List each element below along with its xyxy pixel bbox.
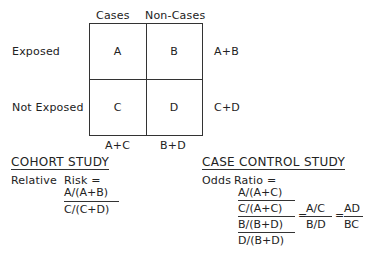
case-control-title-underline bbox=[202, 169, 345, 170]
cc-mid-bar bbox=[306, 216, 332, 217]
cell-a: A bbox=[89, 45, 146, 58]
cohort-denominator: C/(C+D) bbox=[64, 203, 109, 216]
cohort-study-title: COHORT STUDY bbox=[11, 155, 109, 169]
case-control-title: CASE CONTROL STUDY bbox=[202, 155, 345, 169]
col-total-non-cases: B+D bbox=[160, 139, 186, 152]
cc-top-denominator: C/(A+C) bbox=[238, 202, 282, 215]
row-header-exposed: Exposed bbox=[12, 45, 60, 58]
cohort-label-relative: Relative bbox=[11, 174, 57, 187]
grid-line-center bbox=[146, 23, 147, 136]
cc-mid-denominator: B/D bbox=[306, 218, 326, 231]
cc-final-numerator: AD bbox=[344, 202, 360, 215]
cc-bottom-bar bbox=[238, 232, 295, 233]
cc-final-bar bbox=[344, 216, 363, 217]
cc-final-denominator: BC bbox=[344, 218, 359, 231]
cc-top-numerator: A/(A+C) bbox=[238, 186, 282, 199]
cc-bottom-numerator: B/(B+D) bbox=[238, 218, 283, 231]
cohort-title-underline bbox=[11, 169, 109, 170]
cc-mid-numerator: A/C bbox=[306, 202, 325, 215]
cohort-fraction-bar bbox=[64, 201, 119, 202]
grid-line-left bbox=[89, 23, 90, 136]
col-total-cases: A+C bbox=[105, 139, 130, 152]
col-header-cases: Cases bbox=[96, 9, 130, 22]
cell-c: C bbox=[89, 101, 146, 114]
row-total-exposed: A+B bbox=[214, 45, 239, 58]
cohort-numerator: A/(A+B) bbox=[64, 186, 108, 199]
grid-line-right bbox=[202, 23, 203, 136]
cell-d: D bbox=[146, 101, 202, 114]
cell-b: B bbox=[146, 45, 202, 58]
row-header-not-exposed: Not Exposed bbox=[12, 101, 84, 114]
cc-bottom-denominator: D/(B+D) bbox=[238, 234, 284, 247]
col-header-non-cases: Non-Cases bbox=[145, 9, 205, 22]
cc-equals-2: = bbox=[335, 209, 344, 222]
cc-main-bar bbox=[238, 216, 295, 217]
row-total-not-exposed: C+D bbox=[214, 101, 240, 114]
cc-top-bar bbox=[238, 200, 295, 201]
case-control-label-odds: Odds bbox=[202, 174, 231, 187]
